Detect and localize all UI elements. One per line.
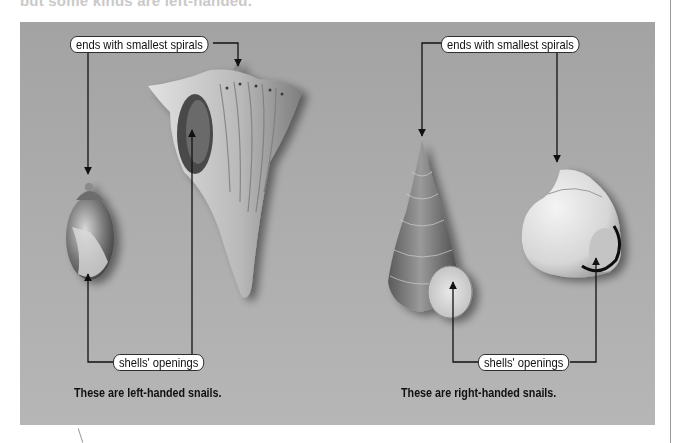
snail-illustration-panel: ends with smallest spirals ends with sma… xyxy=(20,22,655,425)
tall-spiral-shell xyxy=(388,140,472,318)
left-top-label: ends with smallest spirals xyxy=(70,36,209,53)
whelk-conch-shell xyxy=(148,60,302,297)
page-edge-divider xyxy=(670,0,671,443)
left-caption: These are left-handed snails. xyxy=(74,386,222,400)
left-bottom-label: shells' openings xyxy=(113,354,204,371)
right-bottom-label: shells' openings xyxy=(478,354,569,371)
stray-mark xyxy=(78,428,84,443)
small-oval-shell xyxy=(66,183,114,280)
right-caption: These are right-handed snails. xyxy=(401,386,556,400)
header-text-partial: but some kinds are left-handed. xyxy=(20,0,252,9)
right-top-label: ends with smallest spirals xyxy=(441,36,580,53)
round-snail-shell xyxy=(522,170,621,278)
